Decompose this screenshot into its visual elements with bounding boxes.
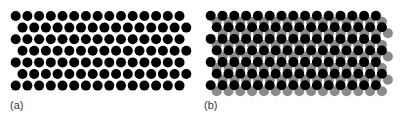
- lattice-atom: [318, 69, 328, 79]
- lattice-atom: [175, 11, 185, 21]
- lattice-atom: [93, 11, 103, 21]
- lattice-atom: [336, 57, 346, 67]
- lattice-atom: [135, 23, 145, 33]
- lattice-atom: [158, 69, 168, 79]
- lattice-atom: [64, 69, 74, 79]
- lattice-atom: [300, 34, 310, 44]
- lattice-atom: [247, 46, 257, 56]
- lattice-atom: [265, 80, 275, 90]
- lattice-atom: [104, 34, 114, 44]
- lattice-atom: [294, 22, 304, 32]
- single-layer-black: [11, 11, 192, 91]
- lattice-atom: [181, 23, 191, 33]
- lattice-atom: [158, 46, 168, 56]
- lattice-atom: [151, 57, 161, 67]
- lattice-atom: [139, 57, 149, 67]
- lattice-atom: [342, 22, 352, 32]
- lattice-atom: [81, 11, 91, 21]
- lattice-atom: [76, 69, 86, 79]
- lattice-atom: [29, 69, 39, 79]
- lattice-atom: [111, 69, 121, 79]
- lattice-atom: [253, 11, 263, 21]
- lattice-atom: [170, 69, 180, 79]
- lattice-atom: [99, 46, 109, 56]
- lattice-atom: [88, 23, 98, 33]
- lattice-atom: [347, 11, 357, 21]
- lattice-atom: [41, 46, 51, 56]
- lattice-atom: [288, 80, 298, 90]
- lattice-atom: [312, 57, 322, 67]
- lattice-atom: [218, 80, 228, 90]
- lattice-atom: [46, 57, 56, 67]
- lattice-atom: [300, 80, 310, 90]
- lattice-atom: [53, 23, 63, 33]
- lattice-atom: [330, 69, 340, 79]
- lattice-atom: [212, 69, 222, 79]
- lattice-atom: [64, 46, 74, 56]
- lattice-atom: [11, 57, 21, 67]
- lattice-atom: [81, 81, 91, 91]
- lattice-atom: [359, 11, 369, 21]
- lattice-atom: [359, 80, 369, 90]
- lattice-atom: [312, 80, 322, 90]
- panel-b-label: (b): [204, 99, 217, 111]
- lattice-atom: [353, 46, 363, 56]
- lattice-atom: [46, 34, 56, 44]
- lattice-atom: [146, 69, 156, 79]
- lattice-atom: [294, 46, 304, 56]
- lattice-atom: [128, 81, 138, 91]
- lattice-atom: [206, 11, 216, 21]
- lattice-atom: [365, 22, 375, 32]
- lattice-atom: [365, 69, 375, 79]
- lattice-atom: [218, 57, 228, 67]
- lattice-atom: [277, 57, 287, 67]
- lattice-atom: [353, 69, 363, 79]
- lattice-atom: [206, 80, 216, 90]
- lattice-atom: [312, 11, 322, 21]
- lattice-atom: [324, 11, 334, 21]
- lattice-atom: [163, 81, 173, 91]
- lattice-atom: [294, 69, 304, 79]
- lattice-atom: [330, 22, 340, 32]
- lattice-atom: [347, 80, 357, 90]
- lattice-atom: [11, 11, 21, 21]
- lattice-atom: [104, 11, 114, 21]
- lattice-atom: [58, 11, 68, 21]
- lattice-atom: [371, 80, 381, 90]
- lattice-atom: [170, 23, 180, 33]
- lattice-atom: [259, 46, 269, 56]
- lattice-atom: [271, 22, 281, 32]
- lattice-atom: [81, 34, 91, 44]
- lattice-atom: [22, 57, 32, 67]
- lattice-atom: [123, 46, 133, 56]
- lattice-atom: [235, 69, 245, 79]
- lattice-atom: [88, 46, 98, 56]
- lattice-atom: [347, 57, 357, 67]
- lattice-atom: [218, 11, 228, 21]
- lattice-atom: [181, 46, 191, 56]
- lattice-atom: [99, 69, 109, 79]
- lattice-atom: [259, 22, 269, 32]
- lattice-atom: [265, 11, 275, 21]
- lattice-atom: [123, 23, 133, 33]
- lattice-atom: [235, 46, 245, 56]
- lattice-atom: [163, 57, 173, 67]
- lattice-atom: [58, 34, 68, 44]
- lattice-atom: [283, 22, 293, 32]
- lattice-atom: [69, 81, 79, 91]
- lattice-atom: [306, 22, 316, 32]
- lattice-atom: [300, 57, 310, 67]
- lattice-atom: [277, 80, 287, 90]
- lattice-atom: [29, 46, 39, 56]
- lattice-atom: [128, 34, 138, 44]
- lattice-atom: [206, 34, 216, 44]
- lattice-atom: [359, 34, 369, 44]
- lattice-atom: [29, 23, 39, 33]
- lattice-atom: [116, 81, 126, 91]
- lattice-atom: [377, 22, 387, 32]
- lattice-atom: [151, 11, 161, 21]
- lattice-atom: [93, 34, 103, 44]
- lattice-atom: [88, 69, 98, 79]
- lattice-atom: [347, 34, 357, 44]
- lattice-atom: [377, 69, 387, 79]
